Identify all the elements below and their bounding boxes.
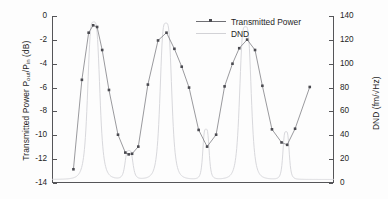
data-point-marker: [165, 31, 168, 34]
data-point-marker: [92, 24, 95, 27]
y-axis-right-tick: [329, 183, 333, 184]
data-point-marker: [254, 49, 257, 52]
series-transmitted-power-line: [73, 25, 309, 169]
data-point-marker: [124, 151, 127, 154]
data-point-marker: [206, 145, 209, 148]
plot-area: [52, 16, 334, 183]
data-point-marker: [294, 127, 297, 130]
data-point-marker: [72, 168, 75, 171]
y-axis-right-tick-label: 80: [340, 84, 362, 92]
y-axis-left-title-main: Transmitted Power P: [21, 81, 31, 161]
y-axis-right-tick-label: 40: [340, 131, 362, 139]
data-point-marker: [147, 83, 150, 86]
legend-label-transmitted-power: Transmitted Power: [231, 18, 301, 26]
y-axis-left-tick-label: -4: [25, 60, 47, 68]
data-point-marker: [223, 85, 226, 88]
legend-item-transmitted-power: Transmitted Power: [196, 16, 328, 28]
data-point-marker: [261, 84, 264, 87]
y-axis-left-tick-label: -6: [25, 84, 47, 92]
data-curves: [52, 16, 334, 183]
data-point-marker: [286, 144, 289, 147]
y-axis-left-tick-label: 0: [25, 12, 47, 20]
y-axis-right-tick-label: 140: [340, 12, 362, 20]
data-point-marker: [108, 89, 111, 92]
y-axis-right-title: DND (fm/√Hz): [372, 32, 380, 174]
y-axis-left-tick-label: -10: [25, 131, 47, 139]
y-axis-right-tick-label: 0: [340, 179, 362, 187]
legend-marker-icon: [209, 19, 212, 22]
y-axis-left-tick-label: -8: [25, 107, 47, 115]
y-axis-right-title-tail: Hz): [371, 76, 381, 89]
y-axis-left-tick-label: -2: [25, 36, 47, 44]
data-point-marker: [96, 26, 99, 29]
data-point-marker: [188, 86, 191, 89]
data-point-marker: [127, 153, 130, 156]
data-point-marker: [308, 86, 311, 89]
data-point-marker: [173, 48, 176, 51]
data-point-marker: [137, 145, 140, 148]
y-axis-left-tick: [53, 183, 57, 184]
data-point-marker: [238, 47, 241, 50]
legend-item-dnd: DND: [196, 28, 328, 40]
data-point-marker: [87, 31, 90, 34]
legend-label-dnd: DND: [231, 30, 249, 38]
data-point-marker: [131, 152, 134, 155]
y-axis-right-title-main: DND (fm/: [371, 94, 381, 130]
data-point-marker: [231, 62, 234, 65]
chart-figure: Transmitted Power Pout/Pin (dB) DND (fm/…: [0, 0, 388, 199]
legend-key-transmitted-power: [196, 17, 226, 27]
legend-line-icon: [196, 33, 226, 34]
data-point-marker: [215, 133, 218, 136]
legend-key-dnd: [196, 29, 226, 39]
data-point-marker: [117, 133, 120, 136]
data-point-marker: [271, 128, 274, 131]
y-axis-right-tick-label: 120: [340, 36, 362, 44]
data-point-marker: [280, 141, 283, 144]
data-point-marker: [101, 49, 104, 52]
chart-legend: Transmitted Power DND: [196, 16, 328, 40]
y-axis-left-tick-label: -12: [25, 155, 47, 163]
data-point-marker: [157, 39, 160, 42]
data-point-marker: [197, 129, 200, 132]
data-point-marker: [81, 79, 84, 82]
y-axis-right-tick-label: 60: [340, 107, 362, 115]
sqrt-icon: √: [371, 90, 381, 95]
data-point-marker: [180, 65, 183, 68]
y-axis-right-tick-label: 20: [340, 155, 362, 163]
y-axis-right-tick-label: 100: [340, 60, 362, 68]
y-axis-left-tick-label: -14: [25, 179, 47, 187]
y-axis-left-title-sub-out: out: [24, 72, 31, 81]
series-dnd-line: [52, 22, 334, 179]
